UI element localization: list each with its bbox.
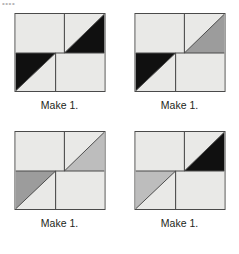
block-wrapper-2: Make 1. [134,13,225,92]
quilt-block-2 [134,13,225,92]
block-wrapper-3: Make 1. [14,131,105,210]
block-caption-4: Make 1. [134,217,225,230]
block-caption-3: Make 1. [14,217,105,230]
block-wrapper-1: Make 1. [14,13,105,92]
quilt-block-1 [14,13,105,92]
quilt-block-diagram-1 [15,14,104,91]
quilt-block-diagram-3 [15,132,104,209]
quilt-block-3 [14,131,105,210]
block-cell-2: Make 1. [120,13,239,130]
quilt-block-diagram-4 [135,132,224,209]
block-grid: Make 1. Make 1. [0,0,239,254]
block-caption-2: Make 1. [134,99,225,112]
block-cell-4: Make 1. [120,131,239,248]
block-cell-3: Make 1. [0,131,119,248]
quilt-block-diagram-2 [135,14,224,91]
block-caption-1: Make 1. [14,99,105,112]
block-wrapper-4: Make 1. [134,131,225,210]
page-root: •••• [0,0,239,254]
block-cell-1: Make 1. [0,13,119,130]
quilt-block-4 [134,131,225,210]
